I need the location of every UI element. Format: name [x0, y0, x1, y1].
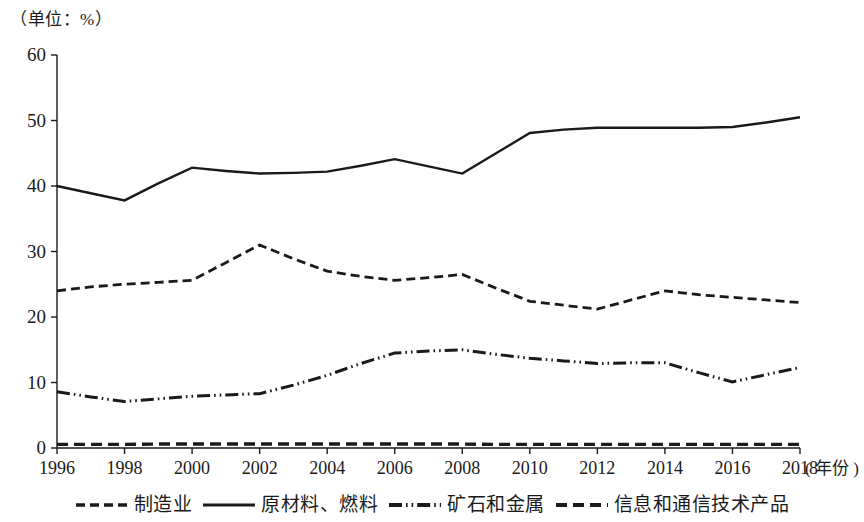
x-axis — [57, 448, 800, 454]
legend-label: 原材料、燃料 — [261, 495, 378, 514]
data-series-group — [57, 117, 800, 444]
x-axis-unit-label: ( 年份 ) — [805, 459, 859, 478]
legend-swatch-ict — [555, 498, 609, 512]
y-tick-label: 0 — [37, 437, 47, 458]
series-line — [57, 117, 800, 200]
series-line — [57, 350, 800, 402]
legend-label: 矿石和金属 — [447, 495, 545, 514]
x-tick-label: 2006 — [377, 458, 413, 478]
x-tick-label: 2008 — [444, 458, 480, 478]
x-tick-label: 2014 — [647, 458, 683, 478]
y-tick-label: 40 — [27, 175, 46, 196]
chart-figure: （单位：%） 0102030405060 1996199820002002200… — [0, 0, 864, 522]
y-axis: 0102030405060 — [27, 44, 57, 458]
x-tick-label: 2016 — [714, 458, 750, 478]
legend-item[interactable]: 矿石和金属 — [388, 495, 545, 514]
legend-item[interactable]: 原材料、燃料 — [202, 495, 378, 514]
chart-legend: 制造业原材料、燃料矿石和金属信息和通信技术产品 — [0, 487, 864, 522]
x-tick-label: 2000 — [174, 458, 210, 478]
x-tick-label: 1996 — [39, 458, 75, 478]
x-tick-label: 2002 — [242, 458, 278, 478]
x-tick-labels: 1996199820002002200420062008201020122014… — [39, 458, 818, 478]
legend-item[interactable]: 制造业 — [75, 495, 193, 514]
x-tick-label: 1998 — [107, 458, 143, 478]
y-tick-label: 50 — [27, 110, 46, 131]
y-tick-label: 20 — [27, 306, 46, 327]
legend-swatch-manufacturing — [75, 498, 129, 512]
line-chart-plot: 0102030405060 19961998200020022004200620… — [0, 0, 864, 490]
y-tick-label: 60 — [27, 44, 46, 65]
legend-label: 制造业 — [134, 495, 193, 514]
x-tick-label: 2004 — [309, 458, 345, 478]
legend-label: 信息和通信技术产品 — [614, 495, 790, 514]
x-tick-label: 2010 — [512, 458, 548, 478]
y-tick-label: 10 — [27, 372, 46, 393]
series-line — [57, 245, 800, 309]
x-tick-label: 2012 — [579, 458, 615, 478]
legend-swatch-raw-materials — [202, 498, 256, 512]
y-tick-label: 30 — [27, 241, 46, 262]
legend-item[interactable]: 信息和通信技术产品 — [555, 495, 790, 514]
legend-swatch-ores-metals — [388, 498, 442, 512]
